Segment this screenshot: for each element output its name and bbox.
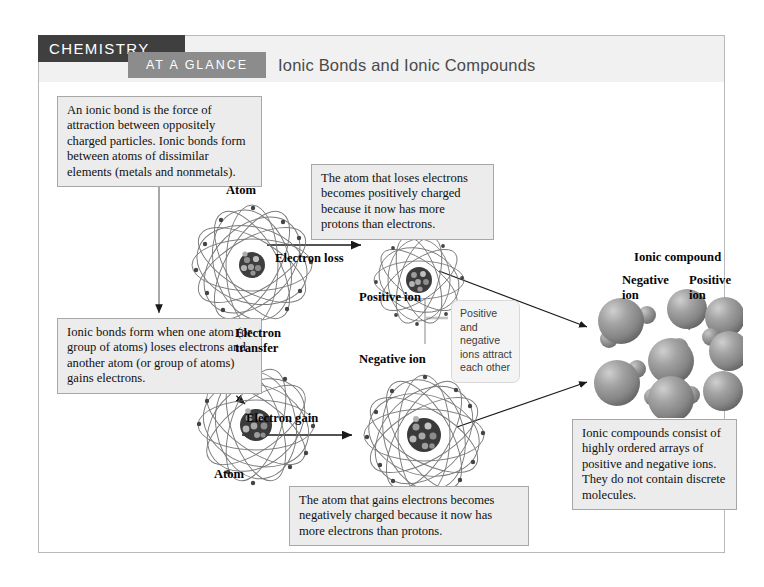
label-electron-transfer: Electron transfer [235, 326, 297, 356]
subtitle-label: AT A GLANCE [146, 58, 248, 72]
nucleus-negative-ion [407, 416, 441, 452]
label-crystal-negative-ion: Negative ion [622, 273, 668, 302]
page-title-text: Ionic Bonds and Ionic Compounds [278, 56, 536, 75]
label-electron-gain: Electron gain [246, 411, 318, 426]
textbox-gains-electrons: The atom that gains electrons becomes ne… [289, 486, 529, 546]
textbox-ionic-arrays: Ionic compounds consist of highly ordere… [572, 419, 737, 510]
textbox-formation: Ionic bonds form when one atom (or group… [57, 318, 262, 394]
concept-map-canvas: An ionic bond is the force of attraction… [39, 82, 724, 552]
callout-attraction: Positive and negative ions attract each … [451, 300, 520, 383]
label-electron-loss: Electron loss [275, 251, 344, 266]
textbox-loses-electrons: The atom that loses electrons becomes po… [311, 164, 494, 240]
nucleus-top [239, 251, 265, 278]
atom-diagram-negative-ion [359, 370, 489, 500]
textbox-definition: An ionic bond is the force of attraction… [57, 96, 262, 187]
label-atom-bottom: Atom [214, 467, 244, 482]
page-root: CHEMISTRY AT A GLANCE Ionic Bonds and Io… [0, 0, 764, 587]
ionic-crystal-lattice [591, 287, 743, 418]
label-ionic-compound: Ionic compound [634, 250, 721, 265]
label-negative-ion: Negative ion [359, 352, 426, 367]
page-title: Ionic Bonds and Ionic Compounds [278, 52, 536, 78]
label-crystal-positive-ion: Positive ion [689, 273, 733, 302]
label-atom-top: Atom [226, 183, 256, 198]
label-positive-ion: Positive ion [359, 290, 421, 305]
subtitle-tab: AT A GLANCE [128, 52, 266, 78]
